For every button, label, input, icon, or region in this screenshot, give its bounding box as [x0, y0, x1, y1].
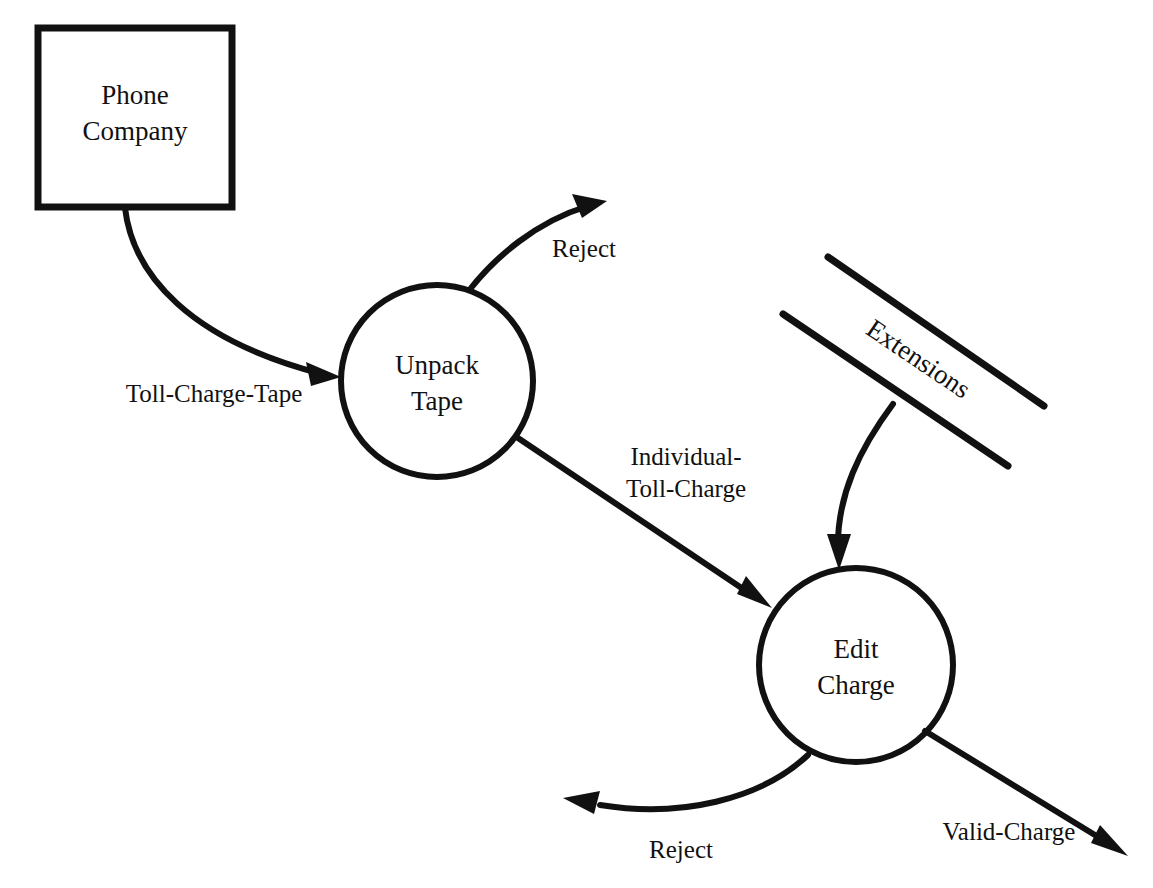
flow-extensions-to-edit-charge[interactable] — [827, 404, 893, 570]
unpack-tape-circle — [341, 285, 533, 477]
flow-individual-toll-charge[interactable]: Individual- Toll-Charge — [518, 438, 772, 608]
unpack-tape-label-line1: Unpack — [395, 350, 479, 380]
individual-toll-charge-arrowhead — [737, 576, 772, 608]
individual-toll-charge-label-line2: Toll-Charge — [626, 475, 746, 502]
external-entity-phone-company[interactable]: Phone Company — [38, 28, 232, 207]
toll-charge-tape-label: Toll-Charge-Tape — [126, 380, 303, 407]
unpack-tape-label-line2: Tape — [411, 386, 463, 416]
process-unpack-tape[interactable]: Unpack Tape — [341, 285, 533, 477]
valid-charge-label: Valid-Charge — [943, 818, 1076, 845]
phone-company-label-line1: Phone — [101, 80, 169, 110]
extensions-to-edit-charge-line — [838, 404, 893, 552]
phone-company-label-line2: Company — [83, 116, 188, 146]
flow-valid-charge[interactable]: Valid-Charge — [925, 731, 1128, 856]
reject-edit-arrowhead — [563, 791, 600, 814]
edit-charge-label-line2: Charge — [817, 670, 894, 700]
flow-reject-unpack[interactable]: Reject — [471, 194, 616, 288]
edit-charge-label-line1: Edit — [834, 634, 879, 664]
reject-unpack-arrowhead — [572, 194, 607, 218]
flow-toll-charge-tape[interactable]: Toll-Charge-Tape — [125, 208, 341, 407]
toll-charge-tape-line — [125, 208, 322, 374]
individual-toll-charge-label-line1: Individual- — [630, 443, 741, 470]
extensions-to-edit-charge-arrowhead — [827, 534, 851, 570]
valid-charge-arrowhead — [1091, 825, 1128, 856]
data-store-extensions[interactable]: Extensions — [783, 257, 1044, 466]
data-flow-diagram: Phone Company Unpack Tape Edit Charge Ex… — [0, 0, 1153, 888]
reject-unpack-label: Reject — [552, 235, 616, 262]
toll-charge-tape-arrowhead — [306, 362, 341, 386]
flow-reject-edit[interactable]: Reject — [563, 755, 808, 863]
extensions-store-label: Extensions — [861, 313, 976, 404]
reject-edit-label: Reject — [649, 836, 713, 863]
reject-edit-line — [600, 755, 808, 809]
diagram-canvas: Phone Company Unpack Tape Edit Charge Ex… — [0, 0, 1153, 888]
